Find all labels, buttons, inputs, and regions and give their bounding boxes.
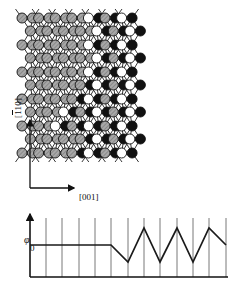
- lattice-atom-black: [135, 134, 145, 144]
- lattice-atom-gray: [25, 26, 35, 36]
- lattice-atom-gray: [100, 94, 110, 104]
- lattice-atom-black: [135, 80, 145, 90]
- lattice-atom-gray: [67, 121, 77, 131]
- lattice-atom-white: [92, 107, 102, 117]
- lattice-atom-gray: [17, 148, 27, 158]
- lattice-atom-gray: [25, 107, 35, 117]
- lattice-atom-white: [92, 26, 102, 36]
- lattice-atom-gray: [75, 107, 85, 117]
- lattice-atom-gray: [100, 121, 110, 131]
- lattice-atom-white: [59, 107, 69, 117]
- lattice-atom-gray: [100, 148, 110, 158]
- lattice-atom-black: [135, 107, 145, 117]
- lattice-atom-white: [125, 107, 135, 117]
- lattice-atom-gray: [34, 40, 44, 50]
- lattice-atom-gray: [50, 13, 60, 23]
- lattice-atom-gray: [34, 148, 44, 158]
- lattice-atom-white: [125, 80, 135, 90]
- axis-label-vertical: [110]: [13, 98, 23, 118]
- lattice-atom-gray: [59, 134, 69, 144]
- index-digit: 0: [13, 101, 23, 106]
- lattice-atom-gray: [25, 80, 35, 90]
- lattice-atom-white: [117, 121, 127, 131]
- lattice-atom-gray: [50, 148, 60, 158]
- lattice-atom-gray: [67, 94, 77, 104]
- lattice-atom-white: [125, 53, 135, 63]
- lattice-atom-gray: [17, 40, 27, 50]
- lattice-atom-white: [83, 121, 93, 131]
- lattice-atom-white: [83, 94, 93, 104]
- lattice-atom-gray: [108, 26, 118, 36]
- lattice-atom-white: [83, 40, 93, 50]
- lattice-atom-gray: [59, 26, 69, 36]
- lattice-atom-gray: [75, 80, 85, 90]
- lattice-atom-gray: [59, 53, 69, 63]
- axis-label-horizontal: [001]: [79, 192, 99, 202]
- phase-axis-label-phi: φ: [24, 234, 30, 245]
- lattice-atom-gray: [100, 67, 110, 77]
- lattice-atom-gray: [67, 13, 77, 23]
- lattice-atom-gray: [50, 67, 60, 77]
- lattice-atom-gray: [17, 121, 27, 131]
- lattice-atom-gray: [50, 94, 60, 104]
- lattice-atom-gray: [67, 67, 77, 77]
- overbar-digit: 1: [13, 110, 23, 114]
- lattice-atom-gray: [67, 40, 77, 50]
- lattice-atom-white: [125, 26, 135, 36]
- lattice-atom-gray: [100, 13, 110, 23]
- lattice-atom-black: [135, 53, 145, 63]
- lattice-atom-gray: [50, 40, 60, 50]
- lattice-atom-gray: [34, 121, 44, 131]
- lattice-atom-gray: [42, 53, 52, 63]
- lattice-atom-black: [135, 26, 145, 36]
- lattice-atom-white: [117, 40, 127, 50]
- lattice-atom-white: [125, 134, 135, 144]
- lattice-atom-gray: [42, 26, 52, 36]
- lattice-atom-gray: [100, 40, 110, 50]
- lattice-atom-black: [127, 94, 137, 104]
- lattice-atom-gray: [108, 80, 118, 90]
- lattice-atom-gray: [34, 13, 44, 23]
- lattice-panel: [16, 9, 146, 162]
- lattice-atom-black: [127, 40, 137, 50]
- lattice-atom-gray: [34, 94, 44, 104]
- lattice-atom-gray: [59, 80, 69, 90]
- lattice-atom-gray: [17, 13, 27, 23]
- lattice-atom-gray: [108, 107, 118, 117]
- lattice-atom-black: [127, 67, 137, 77]
- lattice-atom-white: [83, 67, 93, 77]
- lattice-atom-black: [127, 148, 137, 158]
- lattice-atom-gray: [34, 67, 44, 77]
- lattice-atom-black: [127, 13, 137, 23]
- lattice-atom-gray: [75, 134, 85, 144]
- lattice-atom-gray: [108, 53, 118, 63]
- lattice-atom-white: [117, 13, 127, 23]
- lattice-atom-white: [92, 53, 102, 63]
- lattice-atom-white: [50, 121, 60, 131]
- lattice-atom-gray: [108, 134, 118, 144]
- lattice-atom-white: [92, 80, 102, 90]
- phase-axis-zero-label: 0: [30, 243, 35, 253]
- lattice-atom-white: [83, 148, 93, 158]
- lattice-atom-black: [127, 121, 137, 131]
- lattice-atom-gray: [42, 134, 52, 144]
- lattice-atom-gray: [75, 26, 85, 36]
- lattice-atom-white: [117, 67, 127, 77]
- lattice-atom-gray: [42, 107, 52, 117]
- lattice-atom-gray: [75, 53, 85, 63]
- lattice-atom-white: [83, 13, 93, 23]
- lattice-atom-white: [117, 148, 127, 158]
- lattice-atom-white: [117, 94, 127, 104]
- lattice-atom-gray: [25, 53, 35, 63]
- lattice-atom-white: [92, 134, 102, 144]
- lattice-atom-gray: [67, 148, 77, 158]
- lattice-atom-gray: [42, 80, 52, 90]
- lattice-atom-gray: [17, 67, 27, 77]
